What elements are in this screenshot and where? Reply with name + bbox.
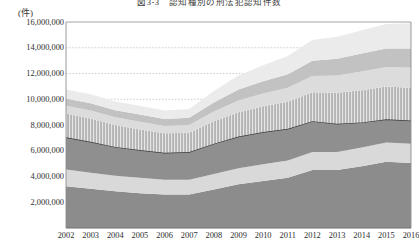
x-tick-label: 2005 bbox=[132, 231, 149, 241]
chart-plot-area bbox=[0, 0, 419, 247]
x-tick-label: 2009 bbox=[230, 231, 247, 241]
x-tick-label: 2003 bbox=[82, 231, 99, 241]
x-tick-label: 2011 bbox=[280, 231, 296, 241]
area-series-group bbox=[66, 23, 411, 228]
x-tick-label: 2002 bbox=[58, 231, 75, 241]
x-tick-label: 2004 bbox=[107, 231, 124, 241]
x-tick-label: 2008 bbox=[205, 231, 222, 241]
x-tick-label: 2006 bbox=[156, 231, 173, 241]
x-tick-label: 2014 bbox=[353, 231, 370, 241]
x-tick-label: 2016 bbox=[403, 231, 419, 241]
x-tick-label: 2010 bbox=[255, 231, 272, 241]
x-tick-label: 2007 bbox=[181, 231, 198, 241]
x-tick-label: 2012 bbox=[304, 231, 321, 241]
x-tick-label: 2013 bbox=[329, 231, 346, 241]
x-tick-label: 2015 bbox=[378, 231, 395, 241]
chart-container: 図3-3 認知種別の刑法犯認知件数 (件) 2,000,0004,000,000… bbox=[0, 0, 419, 247]
x-axis-tick-labels: 2002200320042005200620072008200920102011… bbox=[0, 231, 419, 245]
